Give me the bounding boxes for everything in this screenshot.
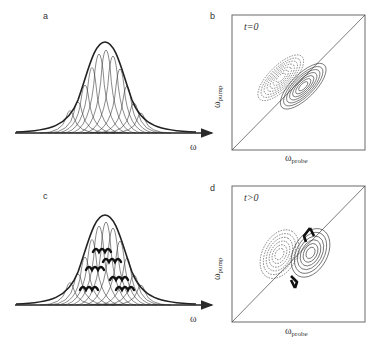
panel-a-spectrum xyxy=(15,42,212,133)
panel-c-xaxis-label: ω xyxy=(190,313,197,324)
panel-b-time-label: t=0 xyxy=(244,21,259,32)
panel-c-spectrum xyxy=(15,215,212,305)
panel-b-2d-spectrum xyxy=(232,15,365,150)
panel-d-yaxis-label: ωpump xyxy=(211,257,224,280)
panel-b-label: b xyxy=(210,11,215,21)
panel-d-xaxis-label: ωprobe xyxy=(285,325,308,338)
panel-b-xaxis-label: ωprobe xyxy=(285,152,308,165)
panel-d-time-label: t>0 xyxy=(244,192,259,203)
panel-d-label: d xyxy=(210,183,215,193)
panel-b-yaxis-label: ωpump xyxy=(211,85,224,108)
panel-d-2d-spectrum xyxy=(232,186,365,322)
figure-canvas xyxy=(0,0,380,347)
panel-a-xaxis-label: ω xyxy=(190,141,197,152)
panel-c-label: c xyxy=(43,191,48,201)
panel-a-label: a xyxy=(43,11,48,21)
